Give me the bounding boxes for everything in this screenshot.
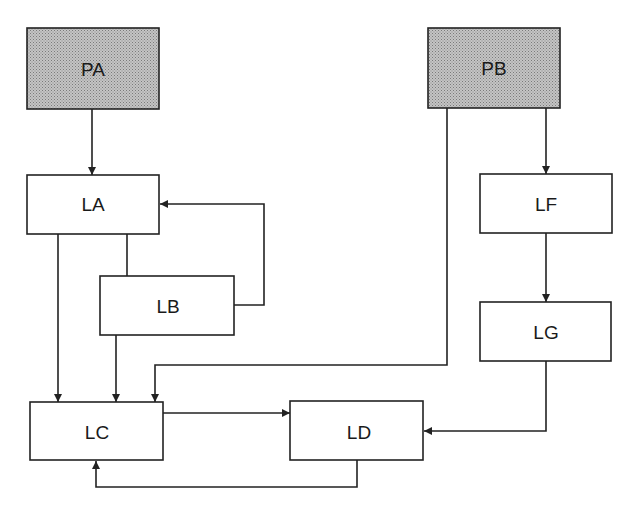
- edge-ld-lc: [96, 460, 357, 487]
- node-pa-label: PA: [81, 59, 105, 80]
- node-pa[interactable]: PA: [27, 28, 159, 109]
- node-lc[interactable]: LC: [30, 402, 163, 460]
- node-lb-label: LB: [156, 296, 179, 317]
- node-lf-label: LF: [535, 194, 557, 215]
- node-ld-label: LD: [347, 422, 371, 443]
- node-lg-label: LG: [533, 322, 558, 343]
- edge-pb-lc: [155, 108, 447, 402]
- dependency-diagram: PA PB LA LB LC LD LF LG: [0, 0, 634, 513]
- node-ld[interactable]: LD: [290, 401, 423, 460]
- node-pb-label: PB: [481, 58, 506, 79]
- edge-lg-ld: [424, 361, 546, 431]
- node-lb[interactable]: LB: [100, 276, 234, 335]
- node-pb[interactable]: PB: [428, 28, 560, 108]
- node-lc-label: LC: [85, 422, 109, 443]
- node-lf[interactable]: LF: [480, 174, 612, 233]
- node-la[interactable]: LA: [27, 175, 159, 234]
- node-la-label: LA: [81, 194, 105, 215]
- node-lg[interactable]: LG: [480, 302, 611, 361]
